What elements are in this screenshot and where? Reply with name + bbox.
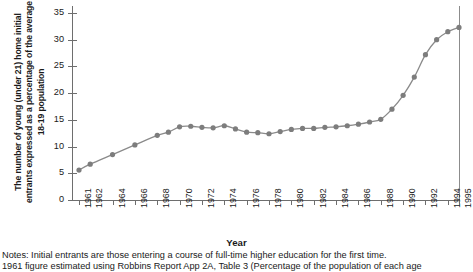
- data-point: [266, 131, 271, 136]
- x-tick-mark: [180, 201, 181, 205]
- data-point: [289, 127, 294, 132]
- note-line-2: 1961 figure estimated using Robbins Repo…: [2, 261, 473, 272]
- data-point: [367, 119, 372, 124]
- notes-block: Notes: Initial entrants are those enteri…: [2, 250, 473, 272]
- data-point: [423, 52, 428, 57]
- chart-figure: The number of young (under 21) home init…: [0, 0, 473, 272]
- x-tick-label: 1995: [463, 188, 473, 208]
- data-point: [199, 125, 204, 130]
- data-point: [445, 29, 450, 34]
- data-point: [278, 129, 283, 134]
- data-point: [322, 125, 327, 130]
- x-axis-title: Year: [0, 237, 473, 248]
- data-point: [132, 142, 137, 147]
- data-point: [211, 125, 216, 130]
- y-tick-label: 25: [12, 61, 64, 70]
- x-tick-mark: [381, 201, 382, 205]
- y-tick-label: 5: [12, 168, 64, 177]
- x-tick-mark: [448, 201, 449, 205]
- series-path: [79, 27, 459, 170]
- x-tick-mark: [269, 201, 270, 205]
- data-point: [244, 130, 249, 135]
- data-point: [456, 25, 461, 30]
- note-line-1: Notes: Initial entrants are those enteri…: [2, 250, 473, 261]
- data-point: [401, 93, 406, 98]
- data-point: [311, 126, 316, 131]
- data-point: [300, 126, 305, 131]
- plot-area: 05101520253035 1961196219641966196819701…: [72, 6, 460, 201]
- data-point: [333, 124, 338, 129]
- data-point: [389, 107, 394, 112]
- x-tick-mark: [403, 201, 404, 205]
- x-tick-mark: [336, 201, 337, 205]
- data-point: [222, 123, 227, 128]
- x-tick-mark: [358, 201, 359, 205]
- x-tick-mark: [291, 201, 292, 205]
- data-point: [345, 123, 350, 128]
- x-tick-mark: [224, 201, 225, 205]
- y-tick-label: 20: [12, 88, 64, 97]
- data-point: [110, 152, 115, 157]
- data-point: [356, 122, 361, 127]
- x-tick-mark: [314, 201, 315, 205]
- data-point: [166, 130, 171, 135]
- data-series-line: [72, 6, 460, 201]
- x-tick-mark: [90, 201, 91, 205]
- y-tick-label: 15: [12, 115, 64, 124]
- y-tick-label: 35: [12, 8, 64, 17]
- data-point: [378, 117, 383, 122]
- data-point: [76, 167, 81, 172]
- x-tick-mark: [202, 201, 203, 205]
- data-point: [188, 124, 193, 129]
- data-point: [412, 75, 417, 80]
- x-tick-mark: [135, 201, 136, 205]
- x-tick-mark: [113, 201, 114, 205]
- series-markers: [76, 25, 461, 173]
- data-point: [233, 126, 238, 131]
- x-tick-mark: [425, 201, 426, 205]
- y-tick-label: 0: [12, 195, 64, 204]
- x-tick-mark: [247, 201, 248, 205]
- data-point: [155, 133, 160, 138]
- data-point: [177, 124, 182, 129]
- y-tick-label: 10: [12, 142, 64, 151]
- data-point: [88, 162, 93, 167]
- x-tick-mark: [459, 201, 460, 205]
- x-tick-mark: [157, 201, 158, 205]
- x-tick-mark: [79, 201, 80, 205]
- data-point: [255, 130, 260, 135]
- y-tick-label: 30: [12, 35, 64, 44]
- data-point: [434, 37, 439, 42]
